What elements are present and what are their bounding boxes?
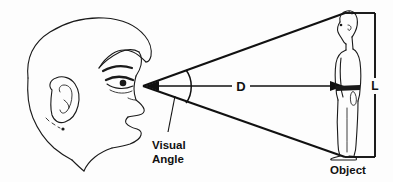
distance-label: D bbox=[236, 79, 245, 94]
diagram-canvas: D Visual Angle bbox=[0, 0, 393, 182]
object-belt bbox=[336, 85, 360, 91]
sideburn-dot bbox=[61, 127, 64, 130]
object-label: Object bbox=[330, 164, 366, 176]
length-label: L bbox=[371, 79, 378, 93]
visual-angle-diagram: D Visual Angle bbox=[0, 0, 393, 182]
visual-angle-label-line2: Angle bbox=[152, 153, 184, 165]
visual-angle-label-line1: Visual bbox=[152, 139, 186, 151]
eye-iris bbox=[120, 80, 127, 87]
object-eye bbox=[340, 24, 343, 27]
